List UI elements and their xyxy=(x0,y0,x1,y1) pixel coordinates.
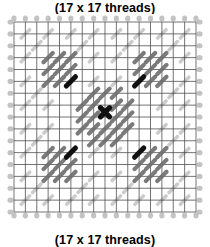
stitch-canvas xyxy=(0,14,210,219)
edge-tick xyxy=(8,209,14,214)
edge-tick xyxy=(197,186,203,191)
edge-tick xyxy=(8,67,14,72)
edge-tick xyxy=(91,213,96,219)
edge-tick xyxy=(125,213,130,219)
edge-tick xyxy=(8,55,14,60)
edge-tick xyxy=(197,55,203,60)
edge-tick xyxy=(8,103,14,108)
edge-tick xyxy=(46,16,51,22)
edge-tick xyxy=(8,186,14,191)
edge-tick xyxy=(197,138,203,143)
edge-tick xyxy=(197,114,203,119)
edge-tick xyxy=(182,213,187,219)
edge-tick xyxy=(197,31,203,36)
edge-tick xyxy=(8,31,14,36)
edge-tick xyxy=(8,138,14,143)
edge-tick xyxy=(8,19,14,24)
edge-tick xyxy=(137,213,142,219)
edge-tick xyxy=(34,213,39,219)
edge-tick xyxy=(197,198,203,203)
edge-tick xyxy=(197,150,203,155)
stitch-chart xyxy=(0,14,210,219)
edge-tick xyxy=(148,213,153,219)
edge-tick xyxy=(8,79,14,84)
edge-tick xyxy=(159,16,164,22)
edge-tick xyxy=(102,16,107,22)
edge-tick xyxy=(8,198,14,203)
edge-tick xyxy=(8,150,14,155)
edge-tick xyxy=(57,213,62,219)
edge-tick xyxy=(57,16,62,22)
edge-tick xyxy=(197,103,203,108)
edge-tick xyxy=(91,16,96,22)
edge-tick xyxy=(197,67,203,72)
edge-tick xyxy=(8,126,14,131)
edge-tick xyxy=(23,213,28,219)
edge-tick xyxy=(197,162,203,167)
edge-tick xyxy=(46,213,51,219)
edge-tick xyxy=(114,16,119,22)
edge-tick xyxy=(159,213,164,219)
edge-tick xyxy=(125,16,130,22)
figure-title-bottom: (17 x 17 threads) xyxy=(0,233,210,247)
edge-tick xyxy=(114,213,119,219)
edge-tick xyxy=(197,174,203,179)
pattern-figure: (17 x 17 threads) (17 x 17 threads) xyxy=(0,0,210,247)
edge-tick xyxy=(197,126,203,131)
edge-tick xyxy=(68,213,73,219)
edge-tick xyxy=(197,91,203,96)
edge-tick xyxy=(34,16,39,22)
edge-tick xyxy=(197,79,203,84)
edge-tick xyxy=(23,16,28,22)
edge-tick xyxy=(80,16,85,22)
figure-title-top: (17 x 17 threads) xyxy=(0,1,210,15)
edge-tick xyxy=(8,114,14,119)
edge-tick xyxy=(80,213,85,219)
edge-tick xyxy=(171,16,176,22)
edge-tick xyxy=(68,16,73,22)
edge-tick xyxy=(8,174,14,179)
edge-tick xyxy=(148,16,153,22)
edge-tick xyxy=(8,162,14,167)
edge-tick xyxy=(8,43,14,48)
edge-tick xyxy=(102,213,107,219)
edge-tick xyxy=(137,16,142,22)
edge-tick xyxy=(197,43,203,48)
edge-tick xyxy=(197,19,203,24)
edge-tick xyxy=(8,91,14,96)
edge-tick xyxy=(182,16,187,22)
edge-tick xyxy=(171,213,176,219)
edge-tick xyxy=(197,209,203,214)
